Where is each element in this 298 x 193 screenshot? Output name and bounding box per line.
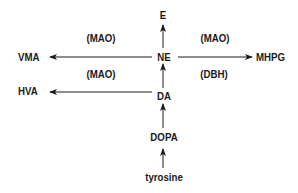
enzyme-label-dbh: (DBH) bbox=[200, 68, 227, 80]
enzyme-label-ne-to-vma: (MAO) bbox=[86, 32, 115, 44]
catecholamine-pathway-diagram: E NE DA DOPA tyrosine VMA HVA MHPG (MAO)… bbox=[0, 0, 298, 193]
enzyme-label-da-to-hva: (MAO) bbox=[86, 68, 115, 80]
node-vma: VMA bbox=[18, 51, 40, 63]
arrows-layer bbox=[0, 0, 298, 193]
node-da: DA bbox=[157, 90, 171, 102]
node-tyrosine: tyrosine bbox=[145, 171, 183, 183]
node-mhpg: MHPG bbox=[256, 51, 285, 63]
node-e: E bbox=[160, 9, 166, 21]
node-ne: NE bbox=[157, 51, 170, 63]
enzyme-label-ne-to-mhpg: (MAO) bbox=[200, 32, 229, 44]
node-hva: HVA bbox=[18, 85, 38, 97]
node-dopa: DOPA bbox=[150, 131, 177, 143]
